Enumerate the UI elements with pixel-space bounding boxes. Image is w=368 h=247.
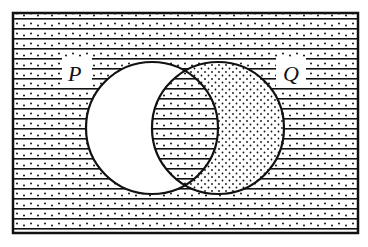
set-q-label: Q: [283, 61, 299, 86]
set-p-label: P: [67, 61, 81, 86]
venn-diagram: P Q: [0, 0, 368, 247]
